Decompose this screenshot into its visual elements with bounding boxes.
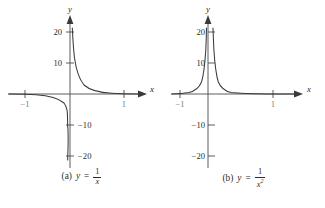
y-axis-arrowhead-a bbox=[67, 15, 74, 24]
x-tick-label-1-a: 1 bbox=[122, 99, 126, 109]
y-axis-label-b: y bbox=[205, 4, 210, 14]
caption-b-denominator-exponent: 2 bbox=[260, 178, 263, 184]
caption-a: (a) y = 1 x bbox=[0, 168, 163, 187]
y-tick-label-neg10-a: −10 bbox=[78, 120, 91, 130]
caption-a-equals: = bbox=[82, 172, 91, 182]
x-axis-label-a: x bbox=[149, 84, 154, 94]
x-tick-label-neg1-a: −1 bbox=[20, 99, 29, 109]
x-tick-label-1-b: 1 bbox=[271, 99, 275, 109]
y-tick-label-neg20-a: −20 bbox=[78, 151, 91, 161]
graph-a-svg: 20 10 −10 −20 −1 1 x y bbox=[0, 0, 163, 168]
caption-a-denominator: x bbox=[94, 178, 102, 187]
caption-a-fraction: 1 x bbox=[93, 168, 101, 187]
caption-b-lead: (b) bbox=[223, 174, 234, 184]
caption-b-variable: y bbox=[235, 174, 241, 184]
curve-branch-right-b bbox=[213, 28, 295, 94]
y-tick-label-20-a: 20 bbox=[53, 27, 62, 37]
curve-branch-q1-a bbox=[72, 28, 139, 94]
y-tick-label-neg20-b: −20 bbox=[192, 151, 205, 161]
y-tick-label-10-b: 10 bbox=[196, 58, 205, 68]
caption-b-numerator: 1 bbox=[256, 168, 264, 177]
figure-two-graphs: 20 10 −10 −20 −1 1 x y (a) y = 1 bbox=[0, 0, 325, 208]
caption-b-equals: = bbox=[244, 174, 253, 184]
y-tick-label-neg10-b: −10 bbox=[192, 120, 205, 130]
y-tick-label-10-a: 10 bbox=[53, 58, 62, 68]
graph-b-svg: 20 10 −10 −20 −1 1 x y bbox=[163, 0, 325, 168]
x-axis-label-b: x bbox=[306, 84, 311, 94]
y-axis-arrowhead-b bbox=[205, 15, 212, 24]
caption-a-variable: y bbox=[74, 172, 80, 182]
caption-a-lead: (a) bbox=[62, 172, 72, 182]
y-axis-label-a: y bbox=[67, 4, 72, 14]
curve-branch-q3-a bbox=[9, 94, 68, 160]
caption-a-numerator: 1 bbox=[93, 168, 101, 177]
y-tick-label-20-b: 20 bbox=[196, 27, 205, 37]
caption-b: (b) y = 1 x2 bbox=[163, 168, 325, 189]
graph-panel-a: 20 10 −10 −20 −1 1 x y (a) y = 1 bbox=[0, 0, 163, 208]
caption-b-fraction: 1 x2 bbox=[255, 168, 266, 189]
x-tick-label-neg1-b: −1 bbox=[175, 99, 184, 109]
graph-panel-b: 20 10 −10 −20 −1 1 x y (b) y = 1 bbox=[163, 0, 325, 208]
caption-b-denominator: x2 bbox=[255, 178, 266, 190]
